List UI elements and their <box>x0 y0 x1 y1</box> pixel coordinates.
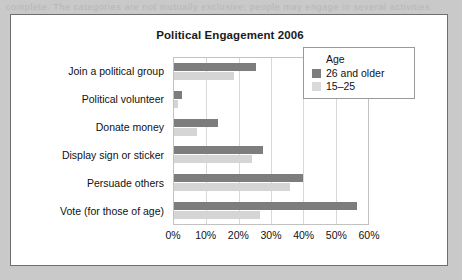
y-axis-label-1: Political volunteer <box>11 85 171 113</box>
bar-0-young <box>174 72 234 80</box>
x-tick-10%: 10% <box>195 229 216 241</box>
page-top-cutoff-text: complete. The categories are not mutuall… <box>0 0 462 14</box>
x-axis-tick-labels: 0%10%20%30%40%50%60% <box>173 229 369 247</box>
x-tick-0%: 0% <box>165 229 180 241</box>
bar-1-older <box>174 91 182 99</box>
legend-title: Age <box>312 53 406 65</box>
bar-4-older <box>174 174 303 182</box>
bar-3-older <box>174 146 263 154</box>
y-axis-label-2: Donate money <box>11 113 171 141</box>
legend-entry-older: 26 and older <box>312 67 406 79</box>
bar-5-young <box>174 211 260 219</box>
x-tick-20%: 20% <box>228 229 249 241</box>
bar-group-5 <box>174 196 368 224</box>
x-tick-40%: 40% <box>293 229 314 241</box>
bar-2-older <box>174 119 218 127</box>
legend-label-young: 15–25 <box>326 80 355 92</box>
legend-entry-young: 15–25 <box>312 80 406 92</box>
bar-0-older <box>174 63 256 71</box>
legend-swatch-icon-young <box>312 82 321 91</box>
bar-group-4 <box>174 169 368 197</box>
bar-4-young <box>174 183 290 191</box>
y-axis-label-3: Display sign or sticker <box>11 141 171 169</box>
chart-legend: Age 26 and older 15–25 <box>303 47 415 99</box>
y-axis-category-labels: Join a political group Political volunte… <box>11 57 171 225</box>
y-axis-label-4: Persuade others <box>11 169 171 197</box>
bar-group-3 <box>174 141 368 169</box>
legend-swatch-icon-older <box>312 69 321 78</box>
x-tick-60%: 60% <box>358 229 379 241</box>
bar-3-young <box>174 155 252 163</box>
chart-figure-panel: Political Engagement 2006 Join a politic… <box>10 14 448 266</box>
chart-title: Political Engagement 2006 <box>11 29 449 41</box>
x-tick-50%: 50% <box>326 229 347 241</box>
bar-5-older <box>174 202 357 210</box>
y-axis-label-5: Vote (for those of age) <box>11 197 171 225</box>
bar-group-2 <box>174 113 368 141</box>
legend-label-older: 26 and older <box>326 67 384 79</box>
bar-2-young <box>174 128 197 136</box>
x-tick-30%: 30% <box>260 229 281 241</box>
y-axis-label-0: Join a political group <box>11 57 171 85</box>
bar-1-young <box>174 100 178 108</box>
